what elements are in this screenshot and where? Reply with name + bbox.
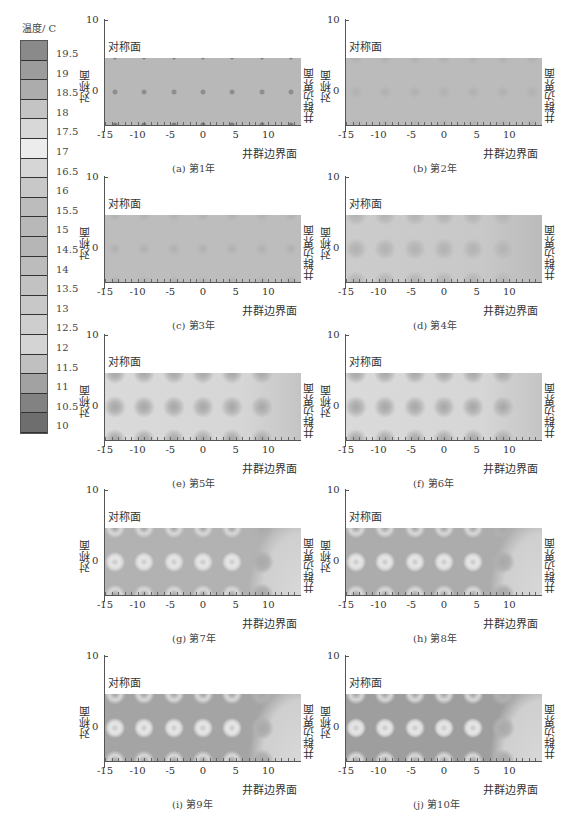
colorbar-label: 13 <box>56 303 69 314</box>
heatmap-plot-area <box>105 373 301 440</box>
boundary-label-bottom: 井群边界面 <box>242 145 297 161</box>
symmetry-label-left: 对称面 <box>78 706 94 739</box>
well-marker <box>251 396 273 418</box>
well-marker <box>525 58 539 65</box>
symmetry-label-top: 对称面 <box>108 674 141 690</box>
well-marker <box>172 58 175 60</box>
well-marker <box>250 528 274 540</box>
well-marker <box>105 694 127 706</box>
x-tick-label: -5 <box>165 129 175 140</box>
x-tick-label: 10 <box>503 129 516 140</box>
well-marker <box>132 694 156 706</box>
well-marker <box>403 716 427 740</box>
symmetry-label-left: 对称面 <box>319 540 335 573</box>
colorbar-swatch <box>21 335 47 355</box>
heatmap-plot-area <box>346 694 542 761</box>
well-marker <box>250 694 274 706</box>
x-axis <box>346 595 542 596</box>
well-marker <box>496 58 510 65</box>
well-marker <box>132 550 156 574</box>
y-tick-label: 10 <box>327 329 340 340</box>
well-marker <box>230 89 235 94</box>
well-marker <box>220 550 244 574</box>
well-marker <box>374 373 396 384</box>
x-tick-label: 10 <box>503 286 516 297</box>
well-marker <box>349 85 363 99</box>
well-marker <box>403 550 427 574</box>
symmetry-label-left: 对称面 <box>78 70 94 103</box>
colorbar-swatch <box>21 198 47 218</box>
well-marker <box>404 373 426 384</box>
panel-caption: (g) 第7年 <box>172 630 216 645</box>
well-marker <box>162 716 186 740</box>
boundary-label-right: 井群边界面 <box>543 68 559 123</box>
well-marker <box>462 271 484 282</box>
heatmap-plot-area <box>346 215 542 282</box>
well-marker <box>433 238 455 260</box>
symmetry-label-left: 对称面 <box>78 227 94 260</box>
well-marker <box>403 749 427 761</box>
well-marker <box>491 550 515 574</box>
well-marker <box>492 373 514 384</box>
x-tick-label: 10 <box>262 444 275 455</box>
well-marker <box>162 550 186 574</box>
well-marker <box>105 550 127 574</box>
well-marker <box>462 238 484 260</box>
colorbar-swatch <box>21 237 47 257</box>
well-marker <box>378 58 392 65</box>
well-marker <box>284 242 298 256</box>
y-tick-label: 10 <box>86 171 99 182</box>
well-marker <box>220 749 244 761</box>
well-marker <box>374 215 396 226</box>
colorbar-swatch <box>21 355 47 375</box>
well-marker <box>374 238 396 260</box>
y-tick-mark <box>345 177 349 178</box>
boundary-label-right: 井群边界面 <box>543 538 559 593</box>
boundary-label-right: 井群边界面 <box>302 538 318 593</box>
colorbar-swatch <box>21 394 47 414</box>
well-marker <box>461 550 485 574</box>
symmetry-label-top: 对称面 <box>349 195 382 211</box>
well-marker <box>191 550 215 574</box>
well-marker <box>163 373 185 384</box>
well-marker <box>373 694 397 706</box>
well-marker <box>346 429 367 440</box>
y-tick-mark <box>345 335 349 336</box>
colorbar-swatch <box>21 139 47 159</box>
well-marker <box>346 215 367 226</box>
x-axis <box>105 125 301 126</box>
well-marker <box>221 373 243 384</box>
well-marker <box>192 373 214 384</box>
well-marker <box>220 583 244 595</box>
x-tick-label: 5 <box>473 599 479 610</box>
well-marker <box>437 58 451 65</box>
well-marker <box>231 58 234 60</box>
well-marker <box>108 215 122 222</box>
heatmap-panel-i: 100对称面对称面井群边界面-15-10-50510井群边界面(i) 第9年 <box>82 650 322 805</box>
well-marker <box>466 85 480 99</box>
colorbar-label: 17.5 <box>56 126 78 137</box>
symmetry-label-left: 对称面 <box>78 540 94 573</box>
x-tick-label: 0 <box>441 444 447 455</box>
well-marker <box>163 396 185 418</box>
symmetry-label-left: 对称面 <box>319 70 335 103</box>
well-marker <box>225 275 239 282</box>
well-marker <box>162 528 186 540</box>
boundary-label-right: 井群边界面 <box>302 704 318 759</box>
x-tick-label: 5 <box>473 129 479 140</box>
well-marker <box>462 215 484 226</box>
well-marker <box>404 271 426 282</box>
boundary-label-right: 井群边界面 <box>302 225 318 280</box>
colorbar-swatch <box>21 276 47 296</box>
well-marker <box>191 716 215 740</box>
x-axis <box>105 761 301 762</box>
well-marker <box>437 85 451 99</box>
colorbar-swatch <box>21 374 47 394</box>
well-marker <box>163 429 185 440</box>
boundary-label-right: 井群边界面 <box>543 383 559 438</box>
colorbar-title: 温度/ C <box>22 20 56 35</box>
symmetry-label-left: 对称面 <box>78 385 94 418</box>
x-tick-label: -10 <box>130 286 146 297</box>
y-tick-mark <box>104 177 108 178</box>
colorbar-label: 12 <box>56 342 69 353</box>
